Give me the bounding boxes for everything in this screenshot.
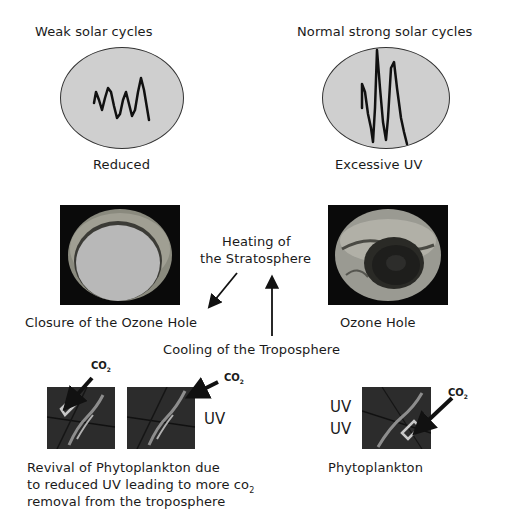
co2-arrow-3-icon bbox=[418, 398, 452, 430]
revival-caption-line2: to reduced UV leading to more co2 bbox=[27, 477, 254, 495]
co2-label-3: CO2 bbox=[448, 387, 468, 400]
co2-label-1: CO2 bbox=[91, 360, 111, 373]
co2-arrows-layer bbox=[0, 0, 507, 531]
uv-label-right-2: UV bbox=[330, 420, 351, 438]
uv-label-middle: UV bbox=[204, 410, 225, 428]
co2-arrow-1-icon bbox=[68, 378, 92, 405]
co2-arrow-2-icon bbox=[192, 382, 218, 395]
revival-caption-line1: Revival of Phytoplankton due bbox=[27, 460, 220, 475]
revival-caption-line3: removal from the troposphere bbox=[27, 494, 225, 509]
co2-label-2: CO2 bbox=[224, 372, 244, 385]
uv-label-right-1: UV bbox=[330, 398, 351, 416]
phytoplankton-caption: Phytoplankton bbox=[328, 460, 423, 475]
